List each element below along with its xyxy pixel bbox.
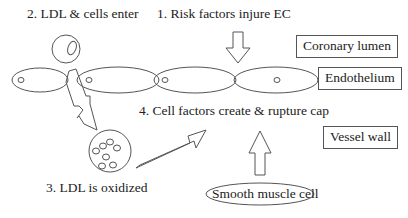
step-3-label: 3. LDL is oxidized [46,181,147,195]
smooth-muscle-arrow [249,131,271,175]
endothelial-cell-3 [154,67,236,93]
endothelial-cell-4 [234,67,318,93]
endothelial-cell-1 [12,68,68,92]
step-1-label: 1. Risk factors injure EC [157,7,291,21]
region-endothelium: Endothelium [318,67,402,90]
ldl-particle-entering [52,35,80,63]
step-4-label: 4. Cell factors create & rupture cap [139,104,329,118]
oxidation-to-cap-arrow [136,130,206,168]
endothelial-cell-2 [77,67,159,93]
oxidized-ldl-cluster [89,130,131,172]
step-2-label: 2. LDL & cells enter [27,7,139,21]
risk-factor-arrow [226,32,250,63]
region-coronary-lumen: Coronary lumen [296,35,398,58]
smooth-muscle-cell-label: Smooth muscle cell [212,187,318,201]
entry-arrow [66,69,97,130]
region-vessel-wall: Vessel wall [323,126,398,149]
